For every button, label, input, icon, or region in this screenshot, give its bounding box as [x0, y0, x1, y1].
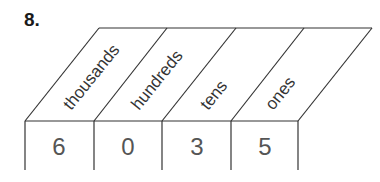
- column-label-hundreds: hundreds: [127, 46, 186, 113]
- digit-tens: 3: [190, 133, 203, 160]
- column-tens: tens 3: [190, 77, 231, 160]
- column-label-ones: ones: [261, 73, 299, 114]
- column-ones: ones 5: [258, 73, 299, 160]
- column-label-thousands: thousands: [59, 41, 123, 114]
- column-hundreds: hundreds 0: [121, 46, 186, 160]
- digit-hundreds: 0: [121, 133, 134, 160]
- column-thousands: thousands 6: [52, 41, 123, 160]
- digit-thousands: 6: [52, 133, 65, 160]
- column-label-tens: tens: [196, 77, 231, 114]
- place-value-chart: thousands 6 hundreds 0 tens 3 ones 5: [0, 0, 380, 182]
- digit-ones: 5: [258, 133, 271, 160]
